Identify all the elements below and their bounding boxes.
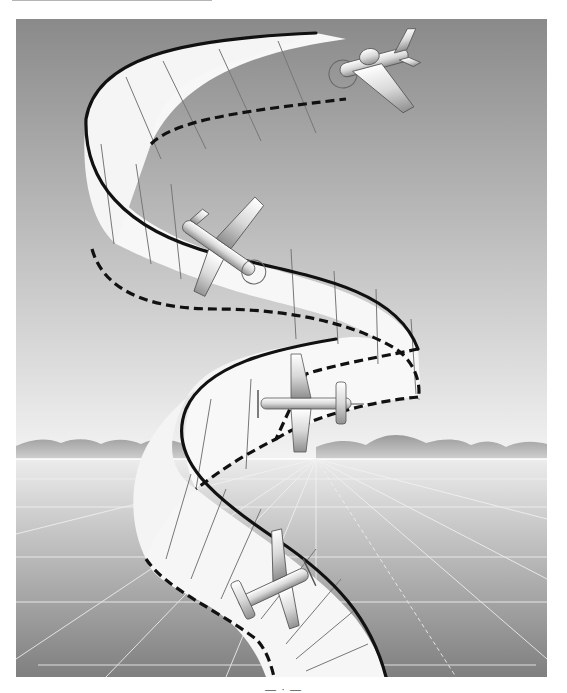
maneuver-illustration (16, 19, 547, 677)
illustration-panel (16, 19, 547, 677)
caption: — · — (0, 683, 567, 693)
top-rule (12, 0, 212, 1)
